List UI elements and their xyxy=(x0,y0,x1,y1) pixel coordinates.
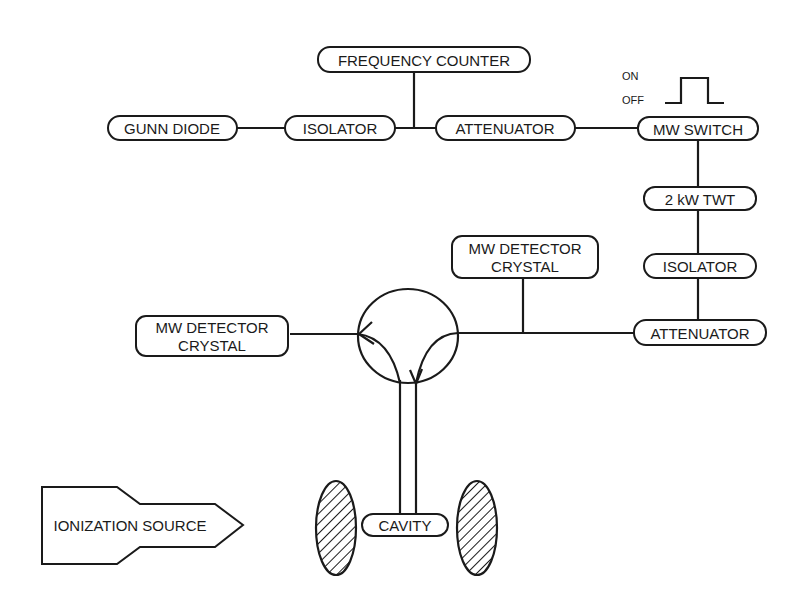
pulse-off-label: OFF xyxy=(622,94,644,106)
attenuator-top-block: ATTENUATOR xyxy=(436,116,575,140)
attenuator-top-label: ATTENUATOR xyxy=(455,120,554,137)
detector-left-line2: CRYSTAL xyxy=(178,337,246,354)
magnet-pole-left-icon xyxy=(316,481,356,575)
frequency-counter-block: FREQUENCY COUNTER xyxy=(318,47,530,72)
pulse-waveform-icon xyxy=(665,78,724,103)
magnet-pole-right-icon xyxy=(457,481,497,575)
detector-crystal-left-block: MW DETECTOR CRYSTAL xyxy=(136,316,288,356)
pulse-on-label: ON xyxy=(622,70,639,82)
isolator-right-block: ISOLATOR xyxy=(644,254,756,278)
ionization-source-block: IONIZATION SOURCE xyxy=(42,487,243,564)
circulator-icon xyxy=(358,289,458,384)
cavity-label: CAVITY xyxy=(378,517,431,534)
twt-block: 2 kW TWT xyxy=(644,187,756,210)
detector-top-line1: MW DETECTOR xyxy=(468,240,581,257)
isolator-top-label: ISOLATOR xyxy=(303,120,378,137)
gunn-diode-block: GUNN DIODE xyxy=(108,116,237,140)
detector-left-line1: MW DETECTOR xyxy=(155,319,268,336)
attenuator-right-label: ATTENUATOR xyxy=(650,325,749,342)
mw-switch-label: MW SWITCH xyxy=(653,121,743,138)
detector-crystal-top-block: MW DETECTOR CRYSTAL xyxy=(452,236,598,278)
switch-pulse: ON OFF xyxy=(622,70,724,106)
gunn-diode-label: GUNN DIODE xyxy=(124,120,220,137)
cavity-block: CAVITY xyxy=(362,514,448,536)
mw-switch-block: MW SWITCH xyxy=(638,117,758,140)
microwave-block-diagram: ON OFF FREQUENCY COUNTER GUNN DIODE ISOL… xyxy=(0,0,800,612)
detector-top-line2: CRYSTAL xyxy=(491,258,559,275)
ionization-source-label: IONIZATION SOURCE xyxy=(53,517,206,534)
attenuator-right-block: ATTENUATOR xyxy=(634,320,766,345)
twt-label: 2 kW TWT xyxy=(665,191,736,208)
isolator-top-block: ISOLATOR xyxy=(285,116,395,140)
frequency-counter-label: FREQUENCY COUNTER xyxy=(338,52,510,69)
isolator-right-label: ISOLATOR xyxy=(663,258,738,275)
